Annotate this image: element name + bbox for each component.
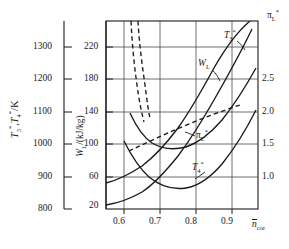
axis-title-left-outer: T3*,T4*/K	[7, 84, 22, 154]
tick-left-outer-1300: 1300	[33, 41, 52, 51]
annotation-wl-label: WL	[198, 58, 210, 70]
tick-left-inner-20: 20	[89, 200, 99, 210]
tick-left-outer-1000: 1000	[33, 138, 52, 148]
tick-left-outer-1100: 1100	[33, 106, 52, 116]
tick-label: 0.8	[185, 216, 197, 226]
tick-label: 800	[38, 203, 52, 213]
tick-right-2.5: 2.5	[262, 73, 274, 83]
tick-label: 180	[84, 73, 98, 83]
axis-title-left-inner-text: WL/(kJ/kg)	[75, 115, 85, 156]
tick-x-0.6: 0.6	[113, 216, 125, 226]
tick-x-0.9: 0.9	[221, 216, 233, 226]
axis-title-left-outer-text: T3*,T4*/K	[8, 100, 19, 138]
tick-label: 1.0	[262, 171, 274, 181]
grid-horizontal	[106, 47, 258, 177]
tick-label: 2.0	[262, 106, 274, 116]
tick-label: 0.7	[149, 216, 161, 226]
annotation-t4-label: T4*	[192, 160, 204, 174]
annotation-t3-text: T3*	[224, 30, 236, 40]
tick-left-outer-900: 900	[38, 171, 52, 181]
tick-label: 140	[84, 106, 98, 116]
tick-left-inner-60: 60	[89, 171, 99, 181]
annotation-t4-text: T4*	[192, 162, 204, 172]
tick-left-inner-180: 180	[84, 73, 98, 83]
tick-label: 2.5	[262, 73, 274, 83]
tick-label: 220	[84, 41, 98, 51]
grid-vertical	[124, 21, 232, 209]
tick-label: 60	[89, 171, 99, 181]
series-pi-curve	[130, 68, 256, 149]
annotation-pi-label: πL*	[196, 128, 208, 142]
series-wl-curve	[106, 29, 252, 205]
axis-x-ticks	[124, 209, 232, 214]
tick-label: 1200	[33, 73, 52, 83]
tick-left-inner-220: 220	[84, 41, 98, 51]
axis-title-right: πL*	[267, 8, 279, 22]
tick-label: 1300	[33, 41, 52, 51]
tick-label: 0.9	[221, 216, 233, 226]
tick-left-outer-1200: 1200	[33, 73, 52, 83]
tick-right-2.0: 2.0	[262, 106, 274, 116]
series-dashed-b	[138, 21, 150, 118]
tick-label: 900	[38, 171, 52, 181]
tick-left-outer-800: 800	[38, 203, 52, 213]
tick-label: 1100	[33, 106, 52, 116]
tick-label: 1.5	[262, 138, 274, 148]
tick-x-0.8: 0.8	[185, 216, 197, 226]
tick-left-inner-100: 100	[84, 138, 98, 148]
tick-right-1.5: 1.5	[262, 138, 274, 148]
axis-title-x: ncor	[252, 219, 265, 231]
plot-frame	[106, 21, 258, 209]
axis-title-right-text: πL*	[267, 10, 279, 20]
tick-label: 20	[89, 200, 99, 210]
annotation-pi-text: πL*	[196, 130, 208, 140]
tick-x-0.7: 0.7	[149, 216, 161, 226]
series-t3-curve	[106, 21, 250, 183]
tick-label: 1000	[33, 138, 52, 148]
series-dashed-a	[131, 21, 144, 122]
chart-figure: T3*,T4*/K WL/(kJ/kg) πL* ncor	[0, 0, 289, 249]
tick-label: 100	[84, 138, 98, 148]
axis-left-outer	[64, 21, 72, 209]
annotation-t3-label: T3*	[224, 28, 236, 42]
annotation-wl-text: WL	[198, 58, 210, 68]
tick-left-inner-140: 140	[84, 106, 98, 116]
tick-label: 0.6	[113, 216, 125, 226]
tick-right-1.0: 1.0	[262, 171, 274, 181]
